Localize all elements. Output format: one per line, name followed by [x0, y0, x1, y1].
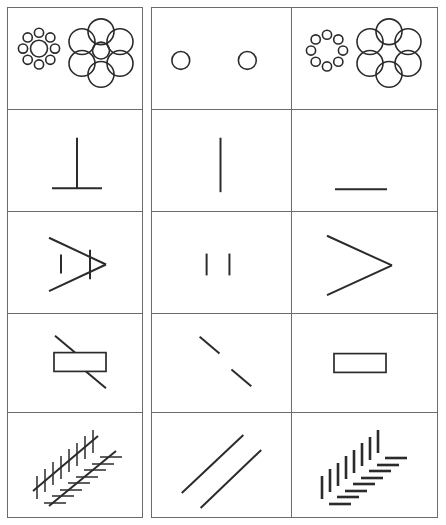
- cell-r5c1-zollner-complete: [8, 413, 142, 517]
- cell-r4c1-poggendorff-complete: [8, 314, 142, 413]
- cell-r2c3-horizontal-line-target: [292, 110, 437, 212]
- cell-r5c2-zollner-targets: [152, 413, 292, 517]
- cell-r3c2-chevron-targets: [152, 212, 292, 314]
- illusion-grid-figure: Geometric illusion decomposition grid: [0, 0, 446, 525]
- cell-r3c1-chevron-complete: [8, 212, 142, 314]
- cell-r4c2-poggendorff-targets: [152, 314, 292, 413]
- figure-title: Geometric illusion decomposition grid: [0, 0, 1, 1]
- left-column-block: [7, 7, 143, 518]
- cell-r4c3-poggendorff-context: [292, 314, 437, 413]
- cell-r3c3-chevron-context: [292, 212, 437, 314]
- cell-r1c3-ebbinghaus-context: [292, 8, 437, 110]
- cell-r1c1-ebbinghaus-complete: [8, 8, 142, 110]
- cell-r2c2-vertical-line-target: [152, 110, 292, 212]
- cell-r5c3-zollner-context: [292, 413, 437, 517]
- cell-r1c2-ebbinghaus-targets: [152, 8, 292, 110]
- right-columns-block: [151, 7, 438, 518]
- cell-r2c1-vertical-horizontal-complete: [8, 110, 142, 212]
